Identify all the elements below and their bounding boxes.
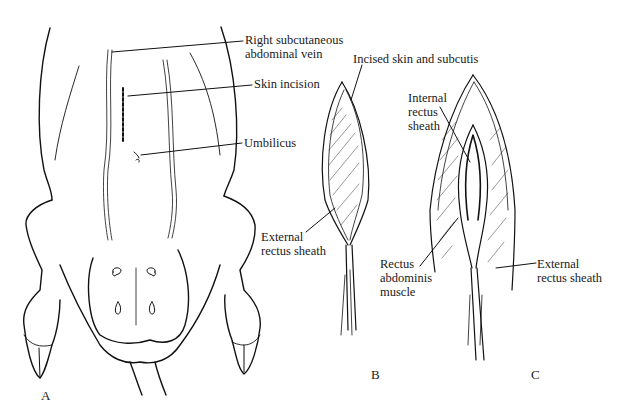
label-right-subcutaneous-abdominal-vein: Right subcutaneous abdominal vein <box>245 33 343 61</box>
label-incised-skin-and-subcutis: Incised skin and subcutis <box>353 52 478 66</box>
label-umbilicus: Umbilicus <box>244 136 296 150</box>
label-external-rectus-sheath-c: External rectus sheath <box>537 257 602 285</box>
panel-b-drawing <box>322 82 368 335</box>
line-drawing <box>0 0 622 410</box>
panel-a-drawing <box>24 27 261 395</box>
label-external-rectus-sheath-b: External rectus sheath <box>261 230 326 258</box>
label-skin-incision: Skin incision <box>254 77 320 91</box>
label-rectus-abdominis-muscle: Rectus abdominis muscle <box>380 257 432 299</box>
panel-label-a: A <box>41 388 50 404</box>
label-internal-rectus-sheath: Internal rectus sheath <box>408 91 447 133</box>
panel-a-leader-lines <box>112 41 252 155</box>
panel-label-b: B <box>371 367 380 383</box>
panel-label-c: C <box>531 367 540 383</box>
surgical-illustration: Right subcutaneous abdominal vein Skin i… <box>0 0 622 410</box>
